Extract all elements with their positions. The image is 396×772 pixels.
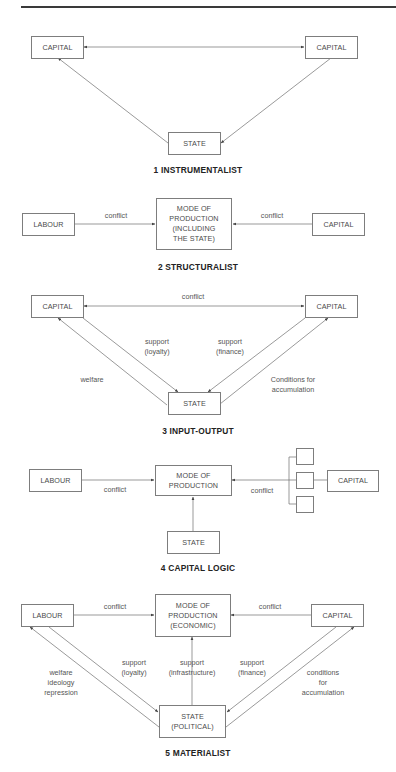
- d5-label-conflict-right: conflict: [250, 602, 290, 612]
- connector-lines: [0, 0, 396, 772]
- d3-label-support-finance: support (finance): [207, 337, 253, 357]
- d5-labour-box: LABOUR: [21, 604, 74, 627]
- d5-mode-box: MODE OF PRODUCTION (ECONOMIC): [155, 594, 231, 637]
- d5-label-support-infrastructure: support (infrastructure): [162, 658, 222, 678]
- d3-state-box: STATE: [168, 392, 221, 415]
- d2-mode-box: MODE OF PRODUCTION (INCLUDING THE STATE): [156, 198, 232, 250]
- d1-state-box: STATE: [168, 132, 221, 155]
- d3-title: 3 INPUT-OUTPUT: [0, 426, 396, 436]
- d5-label-support-finance: support (finance): [230, 658, 274, 678]
- d5-label-welfare: welfare ideology repression: [36, 668, 86, 698]
- d2-label-conflict-right: conflict: [252, 211, 292, 221]
- d4-capital-unit-box-2: [296, 472, 314, 489]
- d4-label-conflict-right: conflict: [242, 486, 282, 496]
- d4-mode-box: MODE OF PRODUCTION: [155, 465, 232, 496]
- d5-label-support-loyalty: support (loyalty): [112, 658, 156, 678]
- d4-capital-box: CAPITAL: [327, 470, 379, 492]
- d3-label-conditions: Conditions for accumulation: [262, 375, 324, 395]
- d3-capital-left-box: CAPITAL: [31, 295, 84, 318]
- d3-label-support-loyalty: support (loyalty): [134, 337, 180, 357]
- d3-label-welfare: welfare: [72, 375, 112, 385]
- d3-label-conflict: conflict: [173, 292, 213, 302]
- d4-state-box: STATE: [167, 531, 220, 554]
- d2-labour-box: LABOUR: [22, 213, 75, 236]
- d5-label-conditions: conditions for accumulation: [292, 668, 354, 698]
- d1-capital-left-box: CAPITAL: [31, 36, 84, 59]
- d4-capital-unit-box-1: [296, 448, 314, 465]
- d4-title: 4 CAPITAL LOGIC: [0, 563, 396, 573]
- d5-state-box: STATE (POLITICAL): [159, 705, 226, 738]
- d3-capital-right-box: CAPITAL: [305, 295, 358, 318]
- d5-title: 5 MATERIALIST: [0, 748, 396, 758]
- cropped-figure-caption: [20, 766, 320, 772]
- d1-capital-right-box: CAPITAL: [305, 36, 358, 59]
- d5-capital-box: CAPITAL: [311, 604, 364, 627]
- d1-title: 1 INSTRUMENTALIST: [0, 165, 396, 175]
- d2-capital-box: CAPITAL: [312, 213, 365, 236]
- d5-label-conflict-left: conflict: [95, 602, 135, 612]
- d4-label-conflict-left: conflict: [95, 485, 135, 495]
- d2-label-conflict-left: conflict: [96, 211, 136, 221]
- d4-labour-box: LABOUR: [29, 469, 82, 492]
- d4-capital-unit-box-3: [296, 496, 314, 513]
- d2-title: 2 STRUCTURALIST: [0, 262, 396, 272]
